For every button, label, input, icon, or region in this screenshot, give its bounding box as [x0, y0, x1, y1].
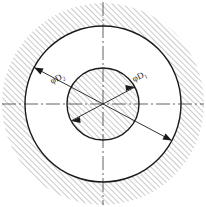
drawing-svg: φD2 φD1 — [0, 0, 206, 207]
technical-drawing-canvas: φD2 φD1 — [0, 0, 206, 207]
